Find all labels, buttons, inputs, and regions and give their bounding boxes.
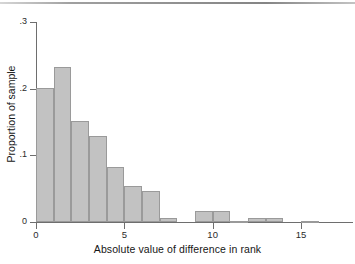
histogram-bar (71, 121, 89, 222)
histogram-bar (124, 186, 142, 222)
histogram-bars (0, 0, 355, 264)
histogram-bar (266, 218, 284, 222)
histogram-bar (142, 191, 160, 222)
histogram-bar (160, 218, 178, 222)
histogram-bar (107, 167, 125, 222)
histogram-bar (213, 211, 231, 222)
histogram-bar (248, 218, 266, 222)
histogram-bar (54, 67, 72, 222)
y-axis-title: Proportion of sample (5, 39, 17, 189)
histogram-bar (89, 136, 107, 222)
histogram-bar (301, 221, 319, 223)
plot-area: 0.1.2.3 051015 Proportion of sample Abso… (0, 0, 355, 264)
histogram-bar (36, 88, 54, 222)
histogram-bar (230, 221, 248, 223)
x-axis-title: Absolute value of difference in rank (0, 243, 355, 255)
histogram-bar (195, 211, 213, 222)
histogram-figure: 0.1.2.3 051015 Proportion of sample Abso… (0, 0, 355, 264)
